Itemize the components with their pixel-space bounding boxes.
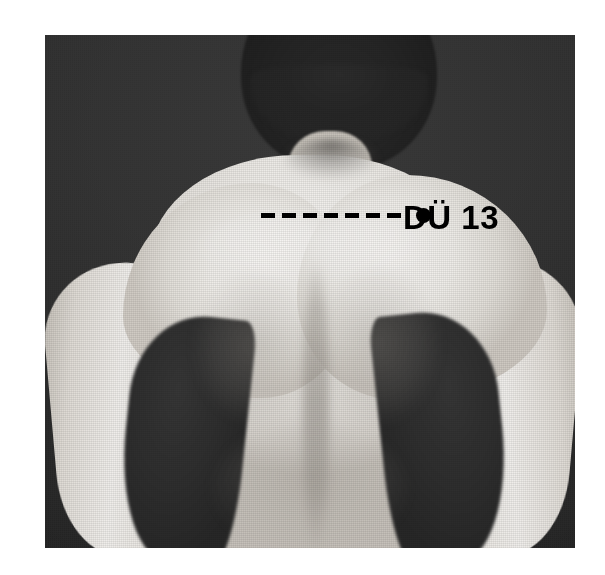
anatomy-photograph: DÜ 13 xyxy=(45,35,575,548)
reference-plate: DÜ 13 xyxy=(0,0,605,575)
acupoint-label: DÜ 13 xyxy=(403,201,499,234)
leader-dash-segment xyxy=(366,213,380,218)
acupoint-annotation: DÜ 13 xyxy=(45,35,575,548)
leader-dash-segment xyxy=(282,213,296,218)
leader-dash-segment xyxy=(324,213,338,218)
leader-dash-segment xyxy=(303,213,317,218)
leader-dash-segment xyxy=(387,213,401,218)
leader-dash-segment xyxy=(261,213,275,218)
leader-dash-segment xyxy=(345,213,359,218)
